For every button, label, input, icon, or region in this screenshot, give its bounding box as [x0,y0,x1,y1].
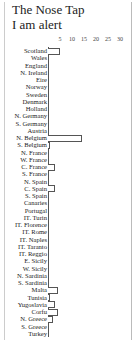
x-tick-label: 15 [81,36,87,42]
x-tick-label: 10 [69,36,75,42]
x-tick-label: 20 [93,36,99,42]
bar-row: Turkey [0,330,135,339]
category-label: Turkey [28,330,47,339]
x-tick-label: 25 [105,36,111,42]
x-axis-ticks: 51015202530 [0,36,135,46]
x-tick-label: 5 [59,36,62,42]
x-tick-label: 30 [117,36,123,42]
chart-title: The Nose Tap [12,2,85,17]
chart-subtitle: I am alert [12,17,62,32]
